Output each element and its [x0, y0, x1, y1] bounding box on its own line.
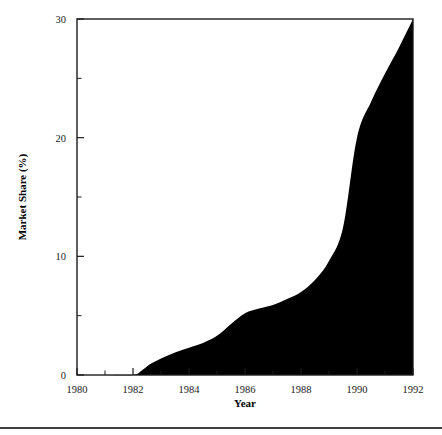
y-tick-label-10: 10 — [56, 251, 67, 262]
x-tick-label-1980: 1980 — [67, 384, 88, 395]
market-share-area-chart: 1980198219841986198819901992 0102030 Yea… — [0, 0, 442, 435]
y-axis-tick-labels: 0102030 — [56, 14, 67, 381]
x-tick-label-1988: 1988 — [291, 384, 312, 395]
x-tick-label-1992: 1992 — [403, 384, 424, 395]
x-axis-title: Year — [234, 397, 256, 409]
x-axis-tick-labels: 1980198219841986198819901992 — [67, 384, 424, 395]
y-tick-label-0: 0 — [61, 370, 66, 381]
x-tick-label-1984: 1984 — [179, 384, 201, 395]
y-tick-label-20: 20 — [56, 133, 67, 144]
x-tick-label-1986: 1986 — [235, 384, 256, 395]
y-tick-label-30: 30 — [56, 14, 67, 25]
y-axis-title: Market Share (%) — [16, 153, 29, 240]
x-tick-label-1982: 1982 — [123, 384, 144, 395]
x-tick-label-1990: 1990 — [347, 384, 368, 395]
chart-figure: 1980198219841986198819901992 0102030 Yea… — [0, 0, 442, 435]
